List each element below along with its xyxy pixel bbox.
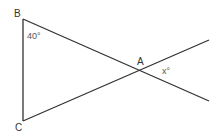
point-label-a: A <box>137 56 144 67</box>
point-label-b: B <box>14 8 21 19</box>
line-c-through-a <box>23 40 209 121</box>
point-label-c: C <box>15 122 22 133</box>
geometry-diagram: B C A 40° x° <box>0 0 221 139</box>
angle-label-b: 40° <box>27 31 41 41</box>
line-b-through-a <box>23 19 209 101</box>
angle-label-x: x° <box>162 66 171 76</box>
